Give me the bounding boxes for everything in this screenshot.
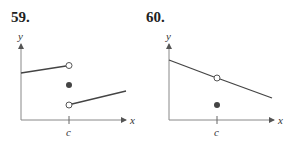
graphs: y x c y x c: [0, 0, 295, 145]
line-left: [169, 60, 214, 77]
open-circle-upper: [66, 63, 72, 69]
tick-label-c: c: [214, 126, 219, 138]
open-circle: [214, 75, 220, 81]
open-circle-lower: [66, 102, 72, 108]
y-axis-label: y: [17, 30, 23, 42]
x-axis-label: x: [277, 114, 283, 126]
tick-label-c: c: [66, 126, 71, 138]
y-axis-label: y: [165, 30, 171, 42]
left-segment: [21, 66, 66, 73]
line-right: [220, 79, 272, 98]
graph-60: y x c: [165, 30, 283, 138]
x-axis-label: x: [129, 114, 135, 126]
right-segment: [72, 91, 126, 104]
filled-point: [66, 82, 72, 88]
filled-point: [214, 102, 220, 108]
graph-59: y x c: [17, 30, 135, 138]
